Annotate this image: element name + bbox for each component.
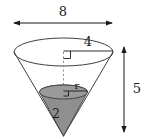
width-dimension-arrow xyxy=(13,20,113,25)
label-water-radius: r xyxy=(75,80,80,91)
label-total-height: 5 xyxy=(133,81,141,96)
cone-diagram-figure: 8 4 r 2 5 xyxy=(0,0,147,139)
top-right-angle-marker-icon xyxy=(64,51,71,59)
height-arrow-head-top xyxy=(121,46,126,53)
water-surface-ellipse xyxy=(40,85,88,99)
water-inner-cone xyxy=(40,85,88,136)
width-arrow-head-right xyxy=(106,20,113,25)
height-dimension-arrow xyxy=(121,46,126,133)
height-arrow-head-bottom xyxy=(121,126,126,133)
width-arrow-head-left xyxy=(13,20,20,25)
top-radius-indicator xyxy=(64,51,114,59)
label-top-radius: 4 xyxy=(84,34,92,49)
cone-diagram-canvas: 8 4 r 2 5 xyxy=(0,0,147,139)
label-top-width: 8 xyxy=(59,4,67,19)
label-water-height: 2 xyxy=(52,107,60,121)
